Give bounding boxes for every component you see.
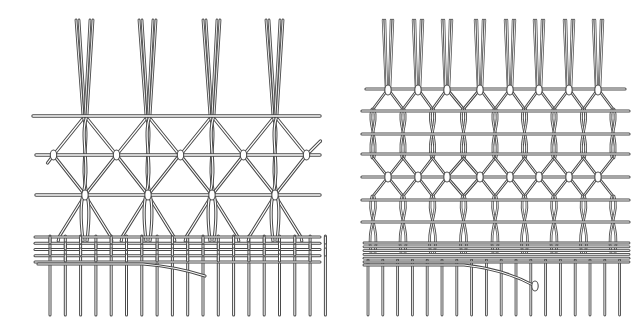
mesh-knot <box>477 172 483 182</box>
mesh-knot <box>385 85 391 95</box>
diagonal-cord-inner <box>54 116 86 155</box>
mesh-knot <box>566 85 572 95</box>
diagonal-cord-inner <box>181 155 213 195</box>
mesh-knot <box>177 150 183 160</box>
mesh-knot <box>595 85 601 95</box>
mesh-knot <box>536 172 542 182</box>
mesh-knot <box>82 190 88 200</box>
mesh-knot <box>415 172 421 182</box>
diagonal-cord-inner <box>181 116 213 155</box>
diagonal-cord-inner <box>244 155 276 195</box>
diagonal-cord-inner <box>117 155 149 195</box>
diagonal-cord-inner <box>212 116 244 155</box>
mesh-knot <box>595 172 601 182</box>
mesh-knot <box>566 172 572 182</box>
weft-end-loop <box>532 281 538 291</box>
mesh-knot <box>145 190 151 200</box>
mesh-knot <box>444 85 450 95</box>
illustration-svg <box>0 0 633 331</box>
right-panel-hexagonal-mesh <box>362 20 629 315</box>
diagonal-cord-inner <box>275 155 307 195</box>
diagonal-cord-inner <box>148 116 180 155</box>
diagonal-cord-inner <box>117 116 149 155</box>
diagonal-cord-inner <box>85 155 117 195</box>
loose-weft-end <box>364 265 535 286</box>
mesh-knot <box>50 150 56 160</box>
diagonal-cord-inner <box>85 116 117 155</box>
macrame-diagram <box>0 0 633 331</box>
left-panel-diamond-mesh <box>33 20 325 315</box>
mesh-knot <box>209 190 215 200</box>
mesh-knot <box>303 150 309 160</box>
mesh-knot <box>415 85 421 95</box>
mesh-knot <box>507 172 513 182</box>
diagonal-cord-inner <box>275 116 307 155</box>
diagonal-cord-inner <box>212 155 244 195</box>
mesh-knot <box>272 190 278 200</box>
loose-weft-end <box>38 264 205 276</box>
diagonal-cord-inner <box>54 155 86 195</box>
mesh-knot <box>444 172 450 182</box>
mesh-knot <box>507 85 513 95</box>
mesh-knot <box>113 150 119 160</box>
mesh-knot <box>385 172 391 182</box>
diagonal-cord-inner <box>148 155 180 195</box>
diagonal-cord-inner <box>244 116 276 155</box>
mesh-knot <box>477 85 483 95</box>
mesh-knot <box>240 150 246 160</box>
mesh-knot <box>536 85 542 95</box>
